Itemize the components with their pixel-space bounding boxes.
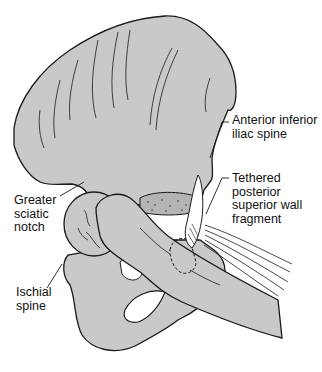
- label-tethered-posterior-superior-wall-fragment: Tethered posterior superior wall fragmen…: [232, 172, 302, 226]
- label-anterior-inferior-iliac-spine: Anterior inferior iliac spine: [232, 114, 317, 141]
- hip-anatomy-illustration: Anterior inferior iliac spine Tethered p…: [0, 0, 322, 372]
- label-ischial-spine: Ischial spine: [16, 286, 51, 313]
- label-greater-sciatic-notch: Greater sciatic notch: [14, 194, 56, 235]
- acetabular-rim: [140, 192, 195, 215]
- ilium: [14, 16, 236, 205]
